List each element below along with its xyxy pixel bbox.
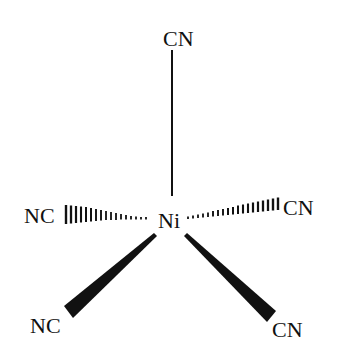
center-atom-label: Ni [158,208,180,233]
left-wedge-ligand-label: NC [30,313,61,338]
left-hashed-bond [66,205,146,224]
left-wedge-bond [64,233,157,318]
ni-cn5-structure-diagram: CN Ni NC CN NC CN [0,0,338,362]
right-wedge-ligand-label: CN [272,317,303,342]
right-hashed-bond [188,198,278,220]
right-hashed-ligand-label: CN [283,195,314,220]
apical-ligand-label: CN [163,26,194,51]
left-hashed-ligand-label: NC [24,203,55,228]
right-wedge-bond [184,233,276,322]
